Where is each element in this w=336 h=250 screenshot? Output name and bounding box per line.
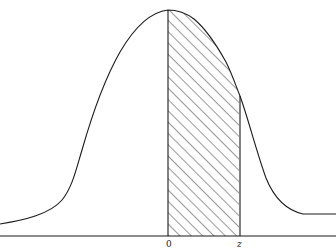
normal-curve-diagram — [0, 0, 336, 250]
label-zero: 0 — [166, 240, 172, 249]
shaded-area-0-to-z — [168, 10, 240, 236]
label-z: z — [237, 240, 242, 249]
